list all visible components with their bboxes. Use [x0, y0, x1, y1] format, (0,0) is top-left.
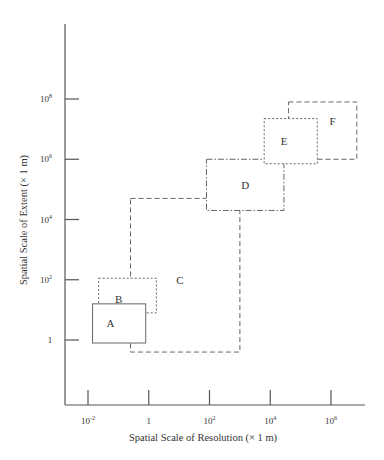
y-tick-label: 108 — [40, 93, 52, 104]
region-box — [264, 119, 317, 164]
region-box — [93, 304, 146, 343]
region-label: D — [241, 179, 249, 191]
regions: CDFEBA — [93, 102, 357, 352]
region-label: A — [107, 317, 115, 329]
x-tick-label: 1 — [147, 416, 152, 426]
x-tick-label: 102 — [204, 415, 216, 426]
diagram-canvas: CDFEBA 10-211021041061102104106108 Spati… — [0, 0, 384, 460]
x-tick-label: 104 — [264, 415, 276, 426]
y-tick-label: 102 — [40, 274, 52, 285]
scale-diagram: CDFEBA 10-211021041061102104106108 Spati… — [0, 0, 384, 460]
y-tick-label: 106 — [40, 153, 52, 164]
region-d: D — [206, 159, 283, 210]
x-axis-label: Spatial Scale of Resolution (× 1 m) — [129, 432, 278, 444]
y-axis-label: Spatial Scale of Extent (× 1 m) — [18, 154, 30, 285]
region-label: F — [329, 115, 335, 127]
region-a: A — [93, 304, 146, 343]
region-box — [131, 198, 240, 352]
y-tick-label: 104 — [40, 214, 52, 225]
x-tick-label: 106 — [325, 415, 337, 426]
region-e: E — [264, 119, 317, 164]
x-tick-label: 10-2 — [81, 415, 95, 426]
region-c: C — [131, 198, 240, 352]
region-label: C — [176, 274, 183, 286]
y-tick-label: 1 — [48, 335, 53, 345]
region-label: E — [281, 135, 288, 147]
